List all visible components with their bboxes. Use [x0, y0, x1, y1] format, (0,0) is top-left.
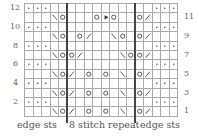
- row-number-3: 3: [184, 88, 189, 97]
- chart-cell-purl-dot-icon: [153, 23, 162, 32]
- chart-cell: [68, 32, 77, 41]
- chart-cell-purl-dot-icon: [42, 98, 51, 107]
- chart-cell: [136, 23, 145, 32]
- row-number-12: 12: [10, 3, 20, 12]
- chart-cell: [153, 89, 162, 98]
- chart-cell-yarn-over-icon: [68, 51, 77, 60]
- chart-cell-yarn-over-icon: [102, 70, 111, 79]
- chart-cell: [102, 42, 111, 51]
- chart-cell: [42, 13, 51, 22]
- chart-cell: [136, 79, 145, 88]
- chart-cell: [93, 51, 102, 60]
- chart-cell-purl-dot-icon: [42, 42, 51, 51]
- chart-cell: [93, 42, 102, 51]
- chart-cell: [110, 89, 119, 98]
- chart-cell: [68, 42, 77, 51]
- chart-cell: [102, 60, 111, 69]
- chart-cell-purl-dot-icon: [42, 60, 51, 69]
- chart-cell-purl-dot-icon: [170, 23, 179, 32]
- chart-cell: [34, 89, 43, 98]
- row-number-1: 1: [184, 106, 189, 115]
- chart-cell-purl-dot-icon: [153, 4, 162, 13]
- chart-cell: [170, 70, 179, 79]
- chart-cell-yarn-over-icon: [85, 89, 94, 98]
- chart-cell: [161, 32, 170, 41]
- chart-cell: [170, 51, 179, 60]
- chart-cell-k2tog-icon: [68, 70, 77, 79]
- chart-cell-purl-dot-icon: [170, 4, 179, 13]
- chart-cell: [25, 51, 34, 60]
- chart-cell: [51, 60, 60, 69]
- repeat-divider-right: [134, 3, 136, 123]
- chart-cell: [170, 13, 179, 22]
- chart-cell: [76, 79, 85, 88]
- chart-cell-purl-dot-icon: [34, 98, 43, 107]
- chart-cell-purl-dot-icon: [153, 42, 162, 51]
- chart-cell-ssk-icon: [51, 13, 60, 22]
- chart-cell: [76, 23, 85, 32]
- chart-cell-purl-dot-icon: [25, 98, 34, 107]
- chart-cell: [153, 32, 162, 41]
- chart-cell-purl-dot-icon: [34, 42, 43, 51]
- chart-cell: [93, 98, 102, 107]
- chart-cell-yarn-over-icon: [93, 13, 102, 22]
- row-number-11: 11: [184, 12, 194, 21]
- chart-cell-ssk-icon: [51, 107, 60, 116]
- chart-cell-purl-dot-icon: [25, 42, 34, 51]
- chart-cell-purl-dot-icon: [25, 23, 34, 32]
- chart-cell-yarn-over-icon: [136, 13, 145, 22]
- chart-cell-purl-dot-icon: [25, 4, 34, 13]
- chart-cell-purl-dot-icon: [153, 98, 162, 107]
- chart-cell-k2tog-icon: [144, 51, 153, 60]
- chart-cell: [76, 98, 85, 107]
- chart-cell: [85, 98, 94, 107]
- chart-cell: [85, 23, 94, 32]
- chart-cell: [102, 32, 111, 41]
- chart-cell: [102, 4, 111, 13]
- chart-cell: [76, 89, 85, 98]
- right-edge-label: edge sts: [140, 119, 180, 130]
- chart-cell-purl-dot-icon: [170, 98, 179, 107]
- chart-cell-yarn-over-icon: [85, 107, 94, 116]
- chart-cell-ssk-icon: [51, 32, 60, 41]
- chart-cell: [144, 4, 153, 13]
- chart-cell-k2tog-icon: [85, 32, 94, 41]
- row-number-4: 4: [13, 78, 18, 87]
- chart-cell: [119, 13, 128, 22]
- chart-cell: [153, 107, 162, 116]
- chart-cell-yarn-over-icon: [102, 89, 111, 98]
- chart-cell-k2tog-icon: [144, 89, 153, 98]
- chart-grid: [24, 3, 178, 117]
- chart-cell: [102, 98, 111, 107]
- chart-cell: [51, 98, 60, 107]
- chart-cell: [136, 4, 145, 13]
- row-number-6: 6: [13, 59, 18, 68]
- chart-cell: [119, 79, 128, 88]
- chart-cell: [119, 4, 128, 13]
- chart-cell: [76, 60, 85, 69]
- chart-cell: [42, 107, 51, 116]
- chart-cell: [144, 23, 153, 32]
- chart-cell: [42, 70, 51, 79]
- chart-cell: [93, 60, 102, 69]
- chart-cell: [136, 60, 145, 69]
- chart-cell: [34, 107, 43, 116]
- chart-cell-ssk-icon: [119, 70, 128, 79]
- chart-cell: [102, 23, 111, 32]
- chart-cell: [25, 70, 34, 79]
- row-number-7: 7: [184, 50, 189, 59]
- chart-cell: [93, 4, 102, 13]
- chart-cell-purl-dot-icon: [34, 23, 43, 32]
- chart-cell: [110, 4, 119, 13]
- chart-cell-k2tog-icon: [76, 51, 85, 60]
- chart-cell: [51, 23, 60, 32]
- chart-cell-purl-dot-icon: [34, 60, 43, 69]
- row-number-8: 8: [13, 41, 18, 50]
- chart-cell: [85, 42, 94, 51]
- chart-cell: [42, 51, 51, 60]
- chart-cell: [85, 13, 94, 22]
- chart-cell: [34, 51, 43, 60]
- chart-cell-ssk-icon: [119, 107, 128, 116]
- chart-cell: [85, 60, 94, 69]
- chart-cell-yarn-over-icon: [102, 107, 111, 116]
